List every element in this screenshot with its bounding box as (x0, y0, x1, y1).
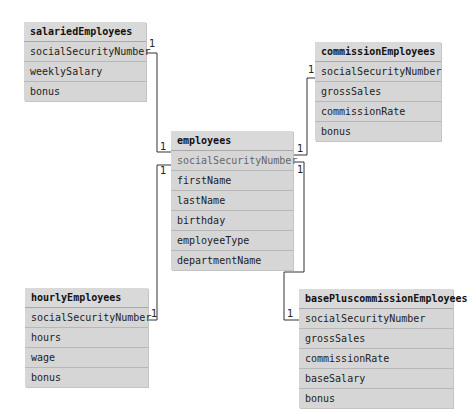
table-title: commissionEmployees (315, 42, 441, 62)
table-title: basePluscommissionEmployees (299, 289, 453, 309)
field-row: bonus (315, 122, 441, 141)
field-row: weeklySalary (24, 62, 146, 82)
cardinality-baseplus: 1 (287, 308, 293, 319)
field-row: grossSales (315, 82, 441, 102)
field-row: socialSecurityNumber (315, 62, 441, 82)
table-commission-employees: commissionEmployees socialSecurityNumber… (315, 42, 441, 141)
cardinality-employees-hourly: 1 (160, 165, 166, 176)
table-title: salariedEmployees (24, 22, 146, 42)
field-row: baseSalary (299, 369, 453, 389)
field-row: wage (25, 348, 148, 368)
cardinality-employees-commission: 1 (297, 143, 303, 154)
field-row: socialSecurityNumber (24, 42, 146, 62)
field-row: socialSecurityNumber (25, 308, 148, 328)
relationship-line-hourly (148, 165, 171, 320)
table-baseplus-commission-employees: basePluscommissionEmployees socialSecuri… (299, 289, 453, 408)
cardinality-commission: 1 (308, 64, 314, 75)
table-employees: employees socialSecurityNumber firstName… (171, 131, 293, 270)
relationship-line-salaried (146, 53, 171, 152)
field-row: lastName (171, 191, 293, 211)
field-row: bonus (299, 389, 453, 408)
table-salaried-employees: salariedEmployees socialSecurityNumber w… (24, 22, 146, 101)
field-row: commissionRate (299, 349, 453, 369)
field-row: socialSecurityNumber (299, 309, 453, 329)
field-row: firstName (171, 171, 293, 191)
primary-key-row: socialSecurityNumber (171, 151, 293, 171)
cardinality-hourly: 1 (151, 308, 157, 319)
field-row: departmentName (171, 251, 293, 270)
field-row: grossSales (299, 329, 453, 349)
cardinality-employees-baseplus: 1 (297, 164, 303, 175)
field-row: commissionRate (315, 102, 441, 122)
field-row: bonus (25, 368, 148, 387)
field-row: birthday (171, 211, 293, 231)
field-row: hours (25, 328, 148, 348)
table-hourly-employees: hourlyEmployees socialSecurityNumber hou… (25, 288, 148, 387)
table-title: employees (171, 131, 293, 151)
cardinality-employees-salaried: 1 (160, 141, 166, 152)
field-row: employeeType (171, 231, 293, 251)
table-title: hourlyEmployees (25, 288, 148, 308)
field-row: bonus (24, 82, 146, 101)
